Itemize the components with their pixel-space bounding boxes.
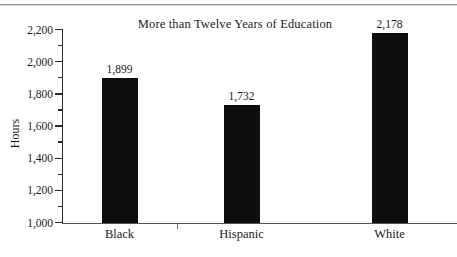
y-axis-minor-tick xyxy=(58,141,63,142)
y-axis-major-tick xyxy=(55,158,63,159)
bar xyxy=(224,105,260,223)
y-axis-major-tick xyxy=(55,61,63,62)
bar-chart-figure: More than Twelve Years of Education Hour… xyxy=(0,0,457,257)
y-axis-major-tick xyxy=(55,93,63,94)
bar xyxy=(102,78,138,223)
y-axis-tick-label: 1,800 xyxy=(5,88,53,100)
y-axis-tick-label: 1,400 xyxy=(5,152,53,164)
y-axis-major-tick xyxy=(55,222,63,223)
x-axis-tick xyxy=(177,224,178,229)
bar-value-label: 1,899 xyxy=(107,63,133,75)
y-axis-minor-tick xyxy=(58,45,63,46)
x-axis-category-label: White xyxy=(374,227,405,242)
y-axis-tick-label: 1,000 xyxy=(5,217,53,229)
y-axis-minor-tick xyxy=(58,174,63,175)
bar-value-label: 2,178 xyxy=(377,18,403,30)
bar-value-label: 1,732 xyxy=(229,90,255,102)
y-axis-minor-tick xyxy=(58,206,63,207)
y-axis-tick-label: 2,000 xyxy=(5,56,53,68)
y-axis-major-tick xyxy=(55,125,63,126)
y-axis-major-tick xyxy=(55,190,63,191)
x-axis-category-label: Black xyxy=(105,227,134,242)
y-axis-tick-label: 2,200 xyxy=(5,24,53,36)
header-rule xyxy=(0,4,457,5)
bar xyxy=(372,33,408,223)
y-axis-minor-tick xyxy=(58,77,63,78)
y-axis-tick-label: 1,200 xyxy=(5,184,53,196)
chart-title: More than Twelve Years of Education xyxy=(62,17,408,32)
y-axis-tick-label: 1,600 xyxy=(5,120,53,132)
x-axis-line xyxy=(62,223,457,224)
y-axis-minor-tick xyxy=(58,109,63,110)
x-axis-category-label: Hispanic xyxy=(219,227,263,242)
y-axis-major-tick xyxy=(55,29,63,30)
